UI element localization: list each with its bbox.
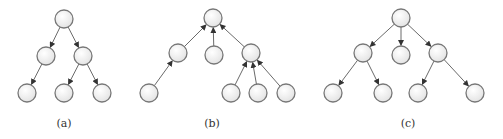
edge-arrow-a0-a2: [68, 27, 79, 48]
tree-node-a5: [93, 84, 111, 102]
edge-arrow-c1-c4: [339, 60, 358, 85]
edge-arrow-a2-a5: [87, 64, 98, 85]
edge-arrow-c3-c6: [422, 61, 434, 84]
tree-node-c0: [392, 9, 410, 27]
tree-node-b0: [204, 9, 222, 27]
nodes-layer: [18, 9, 484, 102]
edge-arrow-b1-b0: [184, 25, 206, 47]
edge-arrow-c1-c5: [367, 61, 379, 84]
edge-arrow-b4-b1: [154, 61, 172, 86]
edge-arrow-a1-a3: [31, 64, 42, 85]
edge-arrow-c3-c7: [444, 60, 468, 86]
tree-node-c4: [324, 84, 342, 102]
tree-diagram: [0, 0, 503, 139]
edge-arrow-a0-a1: [50, 27, 60, 47]
tree-node-b2: [205, 46, 223, 64]
tree-node-c7: [466, 84, 484, 102]
caption-panel-c: (c): [401, 117, 416, 130]
edge-arrow-b3-b0: [220, 24, 244, 46]
tree-node-b1: [169, 44, 187, 62]
tree-node-a4: [55, 84, 73, 102]
tree-node-b3: [242, 44, 260, 62]
tree-node-c6: [409, 84, 427, 102]
edge-arrow-b2-b0: [213, 27, 214, 46]
tree-node-a2: [74, 47, 92, 65]
tree-node-c1: [354, 44, 372, 62]
edge-arrow-b6-b3: [253, 62, 257, 84]
caption-panel-b: (b): [204, 117, 220, 130]
edge-arrow-c0-c3: [408, 24, 432, 46]
caption-panel-a: (a): [56, 117, 71, 130]
tree-node-c5: [374, 84, 392, 102]
tree-node-a1: [37, 47, 55, 65]
tree-node-b4: [140, 84, 158, 102]
tree-node-b7: [277, 84, 295, 102]
tree-node-a3: [18, 84, 36, 102]
tree-node-a0: [55, 10, 73, 28]
tree-node-c3: [429, 44, 447, 62]
tree-node-b5: [222, 84, 240, 102]
edge-arrow-b7-b3: [257, 60, 280, 86]
edge-arrow-b5-b3: [235, 61, 247, 84]
edge-arrow-c0-c1: [370, 24, 394, 46]
tree-node-c2: [392, 46, 410, 64]
tree-node-b6: [249, 84, 267, 102]
edge-arrow-a2-a4: [68, 64, 79, 85]
